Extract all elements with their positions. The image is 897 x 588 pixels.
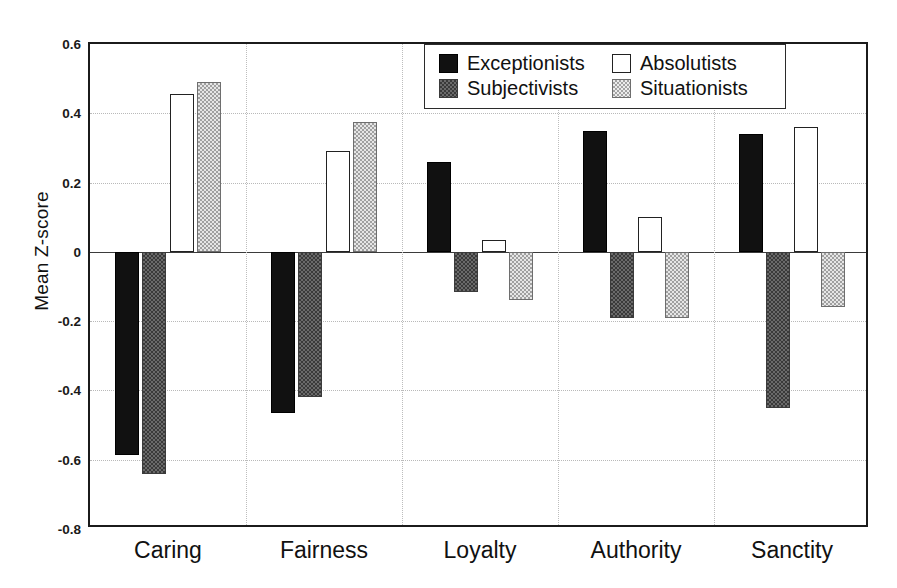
legend-swatch-subjectivists	[439, 79, 458, 98]
y-tick-label: 0.4	[62, 106, 81, 121]
x-tick-label-authority: Authority	[591, 537, 682, 564]
x-tick-label-loyalty: Loyalty	[444, 537, 517, 564]
bar-sanctity-situationists	[821, 252, 845, 307]
x-tick-label-sanctity: Sanctity	[751, 537, 833, 564]
category-separator	[714, 44, 715, 525]
bar-caring-absolutists	[170, 94, 194, 252]
bar-fairness-exceptionists	[271, 252, 295, 413]
bar-authority-subjectivists	[610, 252, 634, 318]
y-tick-label: 0	[73, 244, 81, 259]
chart-legend: ExceptionistsAbsolutistsSubjectivistsSit…	[424, 44, 786, 109]
bar-authority-situationists	[665, 252, 689, 318]
bar-sanctity-absolutists	[794, 127, 818, 252]
x-tick-label-caring: Caring	[134, 537, 202, 564]
legend-entry-absolutists: Absolutists	[612, 52, 775, 75]
category-separator	[246, 44, 247, 525]
bar-fairness-subjectivists	[298, 252, 322, 398]
bar-caring-situationists	[197, 82, 221, 252]
legend-entry-situationists: Situationists	[612, 77, 775, 100]
legend-label: Subjectivists	[467, 77, 578, 100]
bar-loyalty-absolutists	[482, 240, 506, 252]
bar-sanctity-exceptionists	[739, 134, 763, 252]
legend-label: Situationists	[640, 77, 748, 100]
y-tick-label: -0.2	[58, 314, 81, 329]
bar-fairness-absolutists	[326, 151, 350, 251]
gridline	[90, 321, 866, 322]
category-separator	[402, 44, 403, 525]
bar-caring-exceptionists	[115, 252, 139, 455]
legend-label: Exceptionists	[467, 52, 585, 75]
y-tick-label: 0.2	[62, 175, 81, 190]
bar-sanctity-subjectivists	[766, 252, 790, 408]
y-axis-title: Mean Z-score	[31, 131, 53, 371]
bar-authority-exceptionists	[583, 131, 607, 252]
legend-swatch-exceptionists	[439, 54, 458, 73]
y-tick-label: -0.8	[58, 522, 81, 537]
plot-area: 0.60.40.20-0.2-0.4-0.6-0.8 CaringFairnes…	[88, 42, 868, 527]
legend-swatch-situationists	[612, 79, 631, 98]
bar-chart-figure: Mean Z-score 0.60.40.20-0.2-0.4-0.6-0.8 …	[0, 0, 897, 588]
legend-entry-exceptionists: Exceptionists	[439, 52, 602, 75]
bar-loyalty-subjectivists	[454, 252, 478, 292]
bar-fairness-situationists	[353, 122, 377, 252]
legend-entry-subjectivists: Subjectivists	[439, 77, 602, 100]
y-tick-label: 0.6	[62, 37, 81, 52]
legend-swatch-absolutists	[612, 54, 631, 73]
gridline	[90, 460, 866, 461]
bar-loyalty-situationists	[509, 252, 533, 301]
bar-loyalty-exceptionists	[427, 162, 451, 252]
x-tick-label-fairness: Fairness	[280, 537, 368, 564]
bar-caring-subjectivists	[142, 252, 166, 474]
legend-label: Absolutists	[640, 52, 737, 75]
gridline	[90, 390, 866, 391]
y-tick-label: -0.4	[58, 383, 81, 398]
y-tick-label: -0.6	[58, 452, 81, 467]
bar-authority-absolutists	[638, 217, 662, 252]
category-separator	[558, 44, 559, 525]
